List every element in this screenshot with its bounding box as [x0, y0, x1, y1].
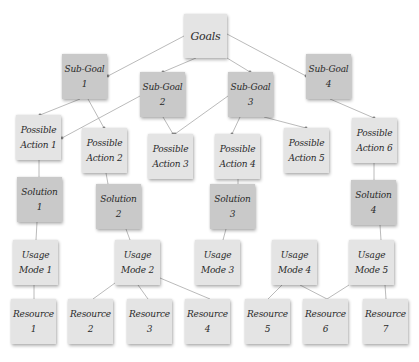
node-sublabel: 2 — [88, 322, 94, 337]
node-label: Resource — [247, 307, 288, 322]
node-label: Usage — [124, 248, 152, 263]
node-sublabel: 5 — [265, 322, 271, 337]
connector-line — [36, 222, 37, 240]
node-sublabel: 7 — [383, 322, 389, 337]
node-label: Goals — [190, 29, 220, 44]
node-resource5[interactable]: Resource5 — [245, 299, 290, 344]
node-action6[interactable]: PossibleAction 6 — [352, 118, 397, 163]
node-subgoal1[interactable]: Sub-Goal1 — [62, 54, 107, 99]
arrowhead-icon — [61, 137, 64, 140]
arrowhead-icon — [107, 75, 110, 78]
node-action5[interactable]: PossibleAction 5 — [284, 128, 329, 173]
node-action1[interactable]: PossibleAction 1 — [16, 115, 61, 160]
node-solution3[interactable]: Solution3 — [210, 184, 255, 229]
node-sublabel: 4 — [371, 203, 377, 218]
node-sublabel: 1 — [37, 200, 43, 215]
node-label: Possible — [357, 126, 393, 141]
node-label: Solution — [21, 185, 57, 200]
node-sublabel: Mode 4 — [278, 263, 311, 278]
node-goals[interactable]: Goals — [184, 14, 227, 58]
node-usage1[interactable]: UsageMode 1 — [13, 240, 58, 285]
node-label: Usage — [281, 248, 309, 263]
node-label: Possible — [21, 123, 57, 138]
node-label: Possible — [289, 136, 325, 151]
node-label: Solution — [214, 192, 250, 207]
node-sublabel: 2 — [116, 207, 122, 222]
node-label: Solution — [355, 188, 391, 203]
node-usage3[interactable]: UsageMode 3 — [195, 240, 240, 285]
connector-line — [330, 99, 374, 118]
node-resource7[interactable]: Resource7 — [363, 299, 408, 344]
node-sublabel: Action 5 — [288, 151, 324, 166]
node-sublabel: 3 — [147, 322, 153, 337]
node-sublabel: 1 — [82, 77, 88, 92]
connector-line — [380, 225, 381, 240]
node-resource2[interactable]: Resource2 — [68, 299, 113, 344]
node-usage2[interactable]: UsageMode 2 — [115, 240, 160, 285]
node-sublabel: 4 — [326, 77, 332, 92]
connector-line — [227, 34, 306, 76]
node-sublabel: Mode 1 — [19, 263, 52, 278]
node-solution4[interactable]: Solution4 — [351, 180, 396, 225]
node-subgoal2[interactable]: Sub-Goal2 — [140, 72, 185, 117]
node-sublabel: 1 — [31, 322, 37, 337]
node-label: Sub-Goal — [142, 80, 182, 95]
connector-line — [327, 285, 349, 299]
node-action2[interactable]: PossibleAction 2 — [82, 128, 127, 173]
connector-line — [227, 58, 250, 72]
node-resource6[interactable]: Resource6 — [303, 299, 348, 344]
connector-line — [163, 117, 173, 134]
node-label: Resource — [129, 307, 170, 322]
connector-line — [88, 99, 104, 128]
node-sublabel: Action 1 — [20, 138, 56, 153]
node-label: Resource — [305, 307, 346, 322]
node-sublabel: Action 6 — [356, 141, 392, 156]
node-label: Sub-Goal — [230, 80, 270, 95]
node-label: Sub-Goal — [308, 62, 348, 77]
node-label: Resource — [70, 307, 111, 322]
node-sublabel: Action 4 — [219, 157, 255, 172]
connector-line — [268, 285, 282, 299]
node-sublabel: 3 — [248, 95, 254, 110]
node-label: Possible — [153, 142, 189, 157]
node-subgoal3[interactable]: Sub-Goal3 — [228, 72, 273, 117]
node-sublabel: 3 — [230, 207, 236, 222]
connector-line — [385, 285, 386, 299]
node-solution2[interactable]: Solution2 — [96, 184, 141, 229]
connector-line — [163, 58, 196, 72]
node-sublabel: Mode 5 — [355, 263, 388, 278]
node-subgoal4[interactable]: Sub-Goal4 — [306, 54, 351, 99]
node-label: Resource — [187, 307, 228, 322]
node-usage4[interactable]: UsageMode 4 — [272, 240, 317, 285]
node-sublabel: 4 — [205, 322, 211, 337]
node-sublabel: 2 — [160, 95, 166, 110]
connector-line — [40, 99, 80, 115]
connector-line — [264, 117, 306, 128]
node-sublabel: Mode 3 — [201, 263, 234, 278]
connector-line — [300, 285, 327, 299]
connector-line — [108, 36, 184, 76]
connector-line — [138, 285, 148, 299]
node-sublabel: Action 2 — [86, 151, 122, 166]
node-sublabel: Mode 2 — [121, 263, 154, 278]
node-resource4[interactable]: Resource4 — [185, 299, 230, 344]
node-label: Usage — [22, 248, 50, 263]
connector-line — [232, 117, 240, 134]
node-label: Resource — [365, 307, 406, 322]
node-label: Possible — [87, 136, 123, 151]
node-label: Usage — [358, 248, 386, 263]
node-solution1[interactable]: Solution1 — [17, 177, 62, 222]
connector-line — [223, 229, 226, 240]
node-label: Usage — [204, 248, 232, 263]
node-label: Resource — [13, 307, 54, 322]
node-usage5[interactable]: UsageMode 5 — [349, 240, 394, 285]
node-resource3[interactable]: Resource3 — [127, 299, 172, 344]
node-sublabel: Action 3 — [152, 157, 188, 172]
node-label: Solution — [100, 192, 136, 207]
node-action3[interactable]: PossibleAction 3 — [148, 134, 193, 179]
node-label: Sub-Goal — [64, 62, 104, 77]
connector-line — [93, 283, 115, 299]
node-sublabel: 6 — [323, 322, 329, 337]
node-resource1[interactable]: Resource1 — [11, 299, 56, 344]
node-action4[interactable]: PossibleAction 4 — [215, 134, 260, 179]
